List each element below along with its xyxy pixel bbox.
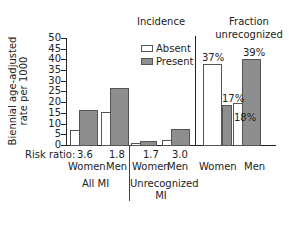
xlabel-unrec-women: Women: [132, 161, 170, 172]
y-tick-label: 35: [43, 65, 61, 75]
bar-unrec-men-present: [171, 129, 190, 146]
y-tick-label: 15: [43, 108, 61, 118]
panel-separator: [195, 36, 196, 146]
legend-swatch-present: [141, 58, 153, 65]
incidence-title: Incidence: [137, 16, 185, 27]
y-tick-label: 5: [43, 129, 61, 139]
y-tick-label: 40: [43, 54, 61, 64]
fraction-title-line1: Fraction: [219, 16, 279, 27]
group-label-unrecognized-line1: Unrecognized: [130, 178, 192, 189]
pct-label-women-absent: 37%: [202, 52, 224, 63]
y-axis-label: Biennial age-adjusted rate per 1000: [7, 31, 29, 151]
pct-label-men-absent: 18%: [234, 112, 256, 123]
xlabel-unrec-men: Men: [167, 161, 188, 172]
legend-label-absent: Absent: [156, 43, 191, 54]
legend-label-present: Present: [156, 56, 194, 67]
bar-allmi-women-present: [79, 110, 98, 146]
bar-frac-men-present: [242, 59, 261, 146]
risk-ratio-label: Risk ratio:: [25, 149, 75, 160]
group-label-all-mi: All MI: [82, 178, 109, 189]
y-axis-label-line1: Biennial age-adjusted: [7, 31, 18, 151]
xlabel-frac-men: Men: [244, 161, 265, 172]
pct-label-women-present: 17%: [222, 93, 244, 104]
group-label-unrecognized-line2: MI: [130, 190, 192, 201]
y-axis-label-line2: rate per 1000: [18, 31, 29, 151]
xlabel-frac-women: Women: [199, 161, 237, 172]
y-tick-label: 20: [43, 97, 61, 107]
y-axis-line: [66, 38, 67, 146]
xlabel-allmi-women: Women: [68, 161, 106, 172]
risk-ratio-allmi-women: 3.6: [77, 149, 93, 160]
y-tick-label: 25: [43, 86, 61, 96]
risk-ratio-unrec-women: 1.7: [143, 149, 159, 160]
xlabel-allmi-men: Men: [106, 161, 127, 172]
bar-frac-women-present: [222, 105, 232, 146]
y-tick-label: 50: [43, 33, 61, 43]
bar-unrec-women-present: [140, 141, 157, 146]
pct-label-men-present: 39%: [243, 47, 265, 58]
bar-allmi-men-present: [110, 88, 129, 146]
fraction-title-line2: unrecognized: [209, 29, 289, 40]
bar-frac-women-absent: [203, 64, 222, 146]
legend-swatch-absent: [141, 45, 153, 52]
risk-ratio-allmi-men: 1.8: [109, 149, 125, 160]
risk-ratio-unrec-men: 3.0: [172, 149, 188, 160]
